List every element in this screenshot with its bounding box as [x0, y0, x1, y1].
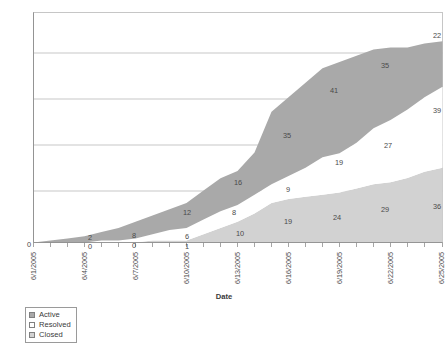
data-label: 1: [185, 242, 189, 251]
x-tick-label: 6/19/2005: [335, 252, 344, 284]
x-tick-label: 6/1/2005: [29, 252, 38, 280]
data-label: 19: [284, 217, 292, 226]
legend-swatch-resolved: [29, 322, 35, 328]
x-tick-label: 6/22/2005: [386, 252, 395, 284]
data-label: 41: [330, 86, 338, 95]
x-tick-label: 6/7/2005: [131, 252, 140, 280]
data-label: 35: [381, 61, 389, 70]
chart-legend: Active Resolved Closed: [25, 307, 77, 343]
x-tick-label: 6/4/2005: [80, 252, 89, 280]
data-label: 16: [234, 178, 242, 187]
legend-label-resolved: Resolved: [39, 320, 71, 330]
x-axis-title: Date: [216, 292, 232, 301]
data-label: 6: [185, 232, 189, 241]
x-tick-label: 6/10/2005: [182, 252, 191, 284]
x-tick-label: 6/25/2005: [437, 252, 446, 284]
legend-item-resolved[interactable]: Resolved: [29, 320, 71, 330]
data-label: 36: [433, 202, 441, 211]
data-label: 22: [433, 31, 441, 40]
legend-swatch-active: [29, 312, 35, 318]
legend-item-active[interactable]: Active: [29, 310, 71, 320]
data-label: 8: [132, 231, 136, 240]
x-axis-tick-labels: 6/1/2005 6/4/2005 6/7/2005 6/10/2005 6/1…: [29, 252, 446, 284]
data-label: 2: [88, 233, 92, 242]
legend-label-closed: Closed: [39, 330, 63, 340]
x-tick-label: 6/13/2005: [233, 252, 242, 284]
x-tick-label: 6/16/2005: [284, 252, 293, 284]
data-label: 8: [232, 208, 236, 217]
y-origin-label: 0: [27, 240, 31, 249]
legend-item-closed[interactable]: Closed: [29, 330, 71, 340]
x-axis-ticks: [34, 243, 443, 248]
data-label: 0: [88, 242, 92, 251]
data-label: 0: [132, 241, 136, 250]
data-label: 27: [384, 141, 392, 150]
data-label: 9: [286, 185, 290, 194]
data-label: 39: [433, 106, 441, 115]
data-label: 12: [183, 208, 191, 217]
data-label: 35: [283, 131, 291, 140]
data-label: 29: [381, 205, 389, 214]
data-label: 19: [335, 158, 343, 167]
data-label: 10: [236, 229, 244, 238]
data-label: 24: [333, 213, 341, 222]
legend-label-active: Active: [39, 310, 60, 320]
legend-swatch-closed: [29, 332, 35, 338]
